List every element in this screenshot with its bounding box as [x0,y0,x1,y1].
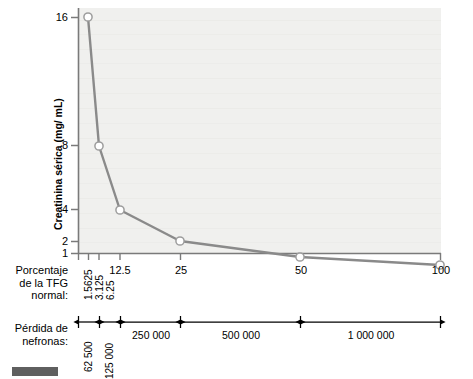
y-tick-label-16: 16 [42,11,68,23]
x-tick-label-1p5625: 1.5625 [83,269,94,300]
data-point [116,206,124,214]
figure-corner-swatch [12,367,58,376]
figure-container: Creatinina sérica (mg/ mL) 16 8 4 2 1 1.… [0,0,473,379]
x-tick-label-100: 100 [423,264,459,276]
y-tick-marks [71,18,78,254]
gfr-label-line3: normal: [0,289,68,302]
nephron-scale [79,316,441,328]
y-tick-label-2: 2 [42,235,68,247]
x-tick-label-25: 25 [164,264,198,276]
nephron-label-line1: Pérdida de [0,322,68,335]
data-point [95,142,103,150]
segment-label-125000: 125 000 [104,343,115,379]
y-tick-label-1: 1 [42,247,68,259]
x-tick-label-50: 50 [284,264,318,276]
nephron-axis-label: Pérdida de nefronas: [0,322,68,347]
x-tick-label-12p5: 12.5 [102,264,138,276]
x-tick-label-6p25: 6.25 [105,281,116,300]
gfr-label-line1: Porcentaje [0,264,68,277]
gfr-axis-label: Porcentaje de la TFG normal: [0,264,68,302]
segment-label-500000: 500 000 [211,329,271,341]
y-tick-label-4: 4 [42,203,68,215]
data-point [296,253,304,261]
nephron-label-line2: nefronas: [0,335,68,348]
gfr-label-line2: de la TFG [0,277,68,290]
segment-label-250000: 250 000 [121,329,181,341]
data-point [84,13,92,21]
data-point [176,237,184,245]
segment-label-1000000: 1 000 000 [340,329,402,341]
chart-canvas [0,0,473,379]
x-tick-label-3p125: 3.125 [94,275,105,300]
segment-label-62500: 62 500 [83,341,94,372]
y-tick-label-8: 8 [42,139,68,151]
